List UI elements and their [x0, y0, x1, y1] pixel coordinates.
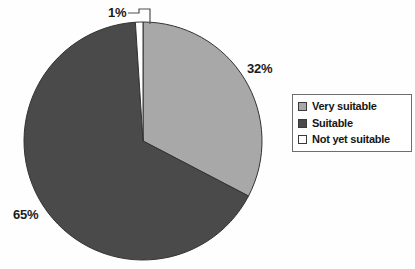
legend-item-not-yet-suitable[interactable]: Not yet suitable — [298, 132, 407, 147]
legend-label-suitable: Suitable — [312, 118, 353, 129]
pie-chart-figure: 32% 65% 1% Very suitable Suitable Not ye… — [0, 0, 415, 269]
chart-legend: Very suitable Suitable Not yet suitable — [292, 94, 412, 152]
legend-label-not-yet-suitable: Not yet suitable — [312, 134, 390, 145]
slice-value-label-not-yet-suitable: 1% — [108, 5, 126, 20]
legend-swatch-not-yet-suitable — [298, 135, 307, 144]
legend-swatch-very-suitable — [298, 102, 307, 111]
legend-swatch-suitable — [298, 119, 307, 128]
legend-label-very-suitable: Very suitable — [312, 101, 377, 112]
slice-value-label-very-suitable: 32% — [247, 61, 272, 76]
legend-item-suitable[interactable]: Suitable — [298, 116, 407, 131]
slice-value-label-suitable: 65% — [13, 207, 38, 222]
legend-item-very-suitable[interactable]: Very suitable — [298, 99, 407, 114]
